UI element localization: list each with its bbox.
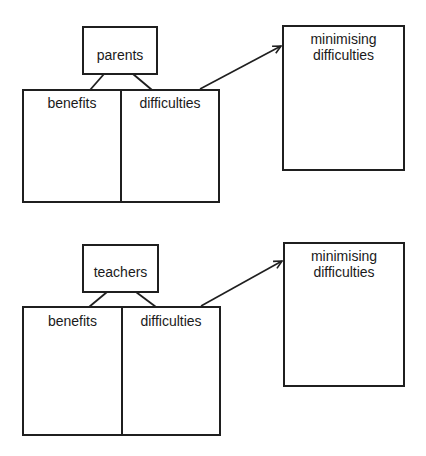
- minimising-label-line2: difficulties: [282, 47, 405, 63]
- connector-stakeholder-difficulties: [133, 74, 152, 90]
- benefits-label: benefits: [22, 95, 122, 111]
- stakeholder-label: teachers: [82, 264, 159, 280]
- difficulties-label: difficulties: [121, 313, 221, 329]
- connector-stakeholder-benefits: [89, 292, 107, 307]
- minimising-label-line1: minimising: [283, 248, 405, 264]
- connector-stakeholder-benefits: [90, 74, 104, 90]
- stakeholder-label: parents: [82, 47, 158, 63]
- arrow-to-minimising: [200, 46, 281, 89]
- minimising-label-line2: difficulties: [283, 264, 405, 280]
- minimising-label-line1: minimising: [282, 31, 405, 47]
- difficulties-label: difficulties: [120, 95, 220, 111]
- arrow-to-minimising: [201, 261, 282, 306]
- connector-stakeholder-difficulties: [136, 292, 156, 307]
- benefits-label: benefits: [22, 313, 123, 329]
